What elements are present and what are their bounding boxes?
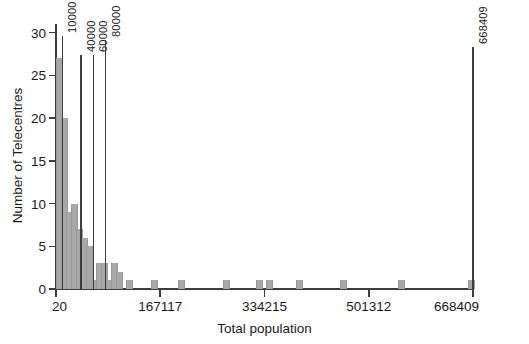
histogram-bar <box>151 280 158 289</box>
x-tick-mark <box>368 290 370 297</box>
histogram-bar <box>266 280 273 289</box>
reference-line-label: 40000 <box>85 20 97 52</box>
x-tick-mark <box>472 290 474 297</box>
plot-area <box>56 24 473 289</box>
histogram-bar <box>126 280 133 289</box>
histogram-bars <box>56 24 473 289</box>
y-tick-label: 10 <box>0 197 46 212</box>
reference-line-label: 80000 <box>110 5 122 37</box>
reference-line <box>80 55 81 289</box>
y-tick-mark <box>49 246 56 248</box>
x-tick-label: 668409 <box>434 299 479 314</box>
histogram-bar <box>256 280 263 289</box>
reference-line <box>472 47 473 289</box>
reference-line <box>62 36 63 289</box>
x-tick-mark <box>264 290 266 297</box>
reference-line <box>93 55 94 289</box>
clipped-header-text <box>0 0 529 9</box>
reference-line-label: 60000 <box>97 20 109 52</box>
y-tick-label: 5 <box>0 239 46 254</box>
histogram-bar <box>340 280 347 289</box>
histogram-figure: Number of Telecentres 051015202530 20167… <box>0 0 529 344</box>
reference-line-label: 668409 <box>477 6 489 44</box>
x-tick-mark <box>55 290 57 297</box>
reference-line <box>105 40 106 289</box>
histogram-bar <box>178 280 185 289</box>
histogram-bar <box>468 280 475 289</box>
x-axis-title: Total population <box>0 321 529 336</box>
x-tick-label: 167117 <box>138 299 182 314</box>
y-tick-label: 0 <box>0 282 46 297</box>
y-tick-mark <box>49 117 56 119</box>
y-tick-mark <box>49 32 56 34</box>
x-tick-mark <box>159 290 161 297</box>
y-tick-label: 15 <box>0 154 46 169</box>
y-tick-label: 30 <box>0 26 46 41</box>
reference-line-label: 10000 <box>66 1 78 33</box>
histogram-bar <box>116 272 123 289</box>
x-tick-label: 20 <box>52 299 67 314</box>
y-tick-label: 25 <box>0 68 46 83</box>
histogram-bar <box>296 280 303 289</box>
histogram-bar <box>398 280 405 289</box>
y-tick-mark <box>49 160 56 162</box>
histogram-bar <box>223 280 230 289</box>
y-tick-label: 20 <box>0 111 46 126</box>
y-tick-mark <box>49 203 56 205</box>
x-tick-label: 501312 <box>346 299 391 314</box>
y-tick-mark <box>49 75 56 77</box>
x-tick-label: 334215 <box>242 299 287 314</box>
